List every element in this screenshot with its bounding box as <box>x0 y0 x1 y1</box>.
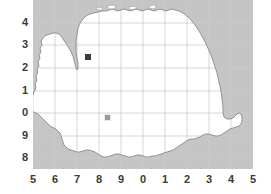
x-tick-label: 7 <box>69 174 85 185</box>
x-tick-label: 6 <box>47 174 63 185</box>
y-tick-label: 4 <box>12 17 28 28</box>
y-tick-label: 1 <box>12 85 28 96</box>
map-canvas <box>33 0 253 169</box>
x-tick-label: 2 <box>179 174 195 185</box>
y-tick-label: 9 <box>12 130 28 141</box>
x-tick-label: 9 <box>113 174 129 185</box>
x-tick-label: 8 <box>91 174 107 185</box>
map-figure: 4 3 2 1 0 9 8 5 6 7 8 9 0 1 2 3 4 5 <box>0 0 271 194</box>
x-tick-label: 0 <box>135 174 151 185</box>
x-tick-label: 3 <box>201 174 217 185</box>
y-tick-label: 8 <box>12 152 28 163</box>
map-plot-area[interactable] <box>33 0 253 169</box>
x-tick-label: 5 <box>245 174 261 185</box>
marker-dark-square[interactable] <box>84 53 92 61</box>
y-tick-label: 0 <box>12 107 28 118</box>
marker-light-square[interactable] <box>104 114 111 121</box>
y-tick-label: 2 <box>12 62 28 73</box>
x-tick-label: 1 <box>157 174 173 185</box>
x-tick-label: 5 <box>25 174 41 185</box>
x-tick-label: 4 <box>223 174 239 185</box>
y-tick-label: 3 <box>12 39 28 50</box>
